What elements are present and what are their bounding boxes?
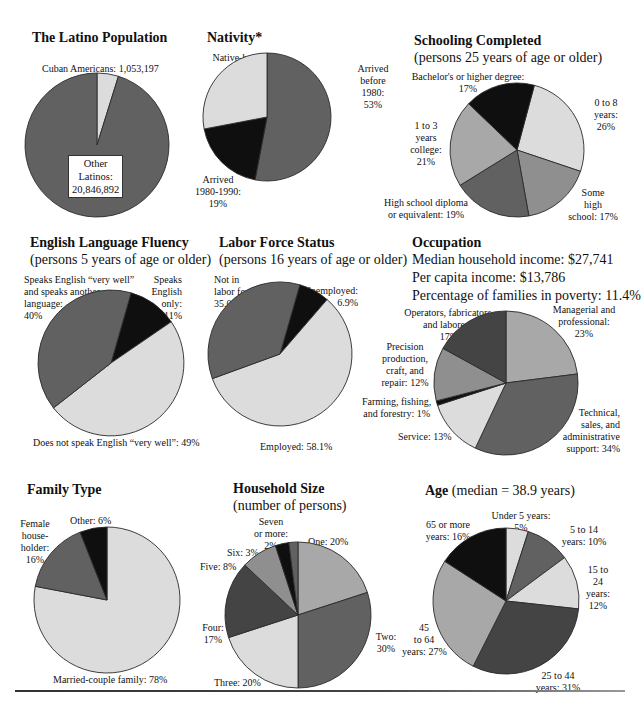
label-line: years: 27% [402,646,446,658]
label-line: years: 31% [530,682,586,694]
label-line: 25 to 44 [530,670,586,682]
label-15-to-24-years: 15 to 24 years: 12% [580,564,616,612]
label-line: 15 to [580,564,616,576]
label-line: 24 [580,576,616,588]
bottom-rule-divider [15,690,625,692]
label-45-to-64-years: 45 to 64 years: 27% [402,622,446,658]
label-line: 45 [402,622,446,634]
label-line: years: [580,588,616,600]
label-line: to 64 [402,634,446,646]
label-line: 12% [580,600,616,612]
